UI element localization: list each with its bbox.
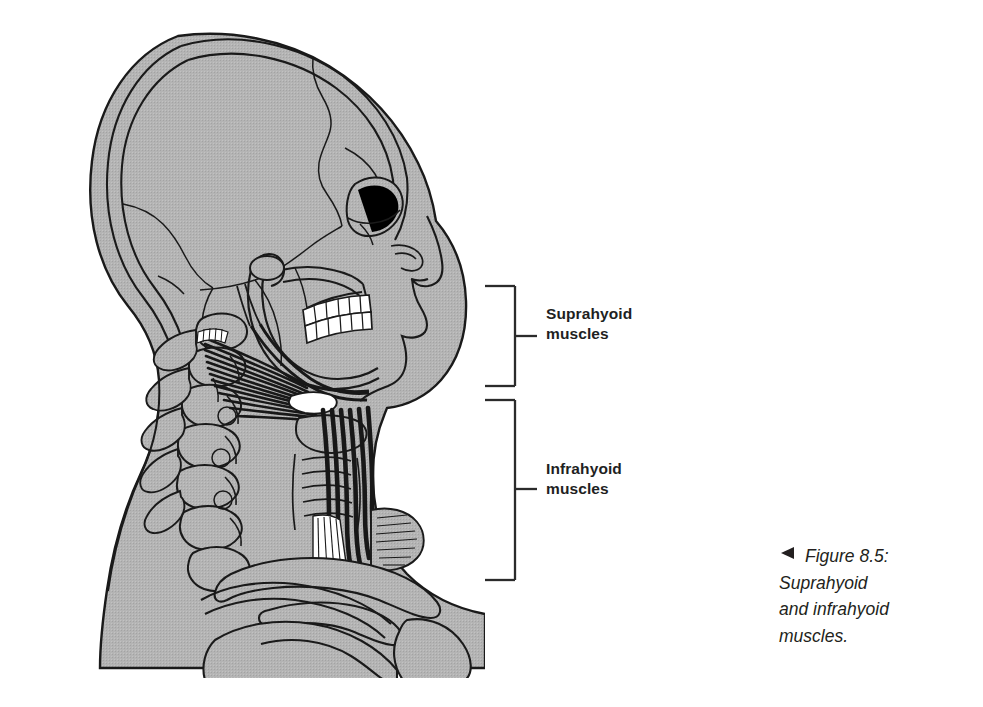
- sternocleidomastoid-attachment: [371, 509, 424, 571]
- anatomy-illustration: [55, 18, 485, 678]
- bracket-infrahyoid: [480, 393, 544, 587]
- figure-container: Suprahyoid muscles Infrahyoid muscles Fi…: [0, 0, 983, 707]
- label-infrahyoid-muscles: Infrahyoid muscles: [546, 459, 622, 500]
- figure-caption: Figure 8.5: Suprahyoid and infrahyoid mu…: [779, 543, 974, 649]
- label-suprahyoid-muscles: Suprahyoid muscles: [546, 304, 632, 345]
- caption-arrow-left-icon: [779, 545, 796, 561]
- bracket-suprahyoid: [480, 278, 544, 394]
- hyoid-bone: [289, 392, 337, 413]
